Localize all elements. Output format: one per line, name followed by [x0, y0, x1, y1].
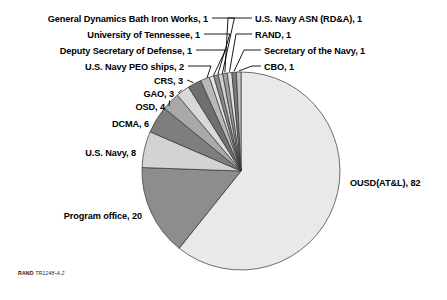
- leader-line: [187, 80, 194, 83]
- leader-line: [239, 66, 261, 71]
- pie-slices-group: [142, 72, 340, 270]
- credit-prefix: RAND: [18, 270, 34, 276]
- pie-chart-figure: General Dynamics Bath Iron Works, 1 Univ…: [0, 0, 447, 300]
- slice-label-crs: CRS, 3: [8, 76, 183, 87]
- leader-line: [230, 34, 253, 72]
- slice-label-cbo: CBO, 1: [264, 62, 294, 73]
- slice-label-program-office: Program office, 20: [8, 211, 142, 222]
- slice-label-secretary-of-the-navy: Secretary of the Navy, 1: [264, 46, 365, 57]
- leader-line: [188, 66, 211, 78]
- slice-label-us-navy-asn-rda: U.S. Navy ASN (RD&A), 1: [255, 14, 362, 25]
- slice-label-us-navy-peo-ships: U.S. Navy PEO ships, 2: [8, 62, 184, 73]
- slice-label-university-of-tennessee: University of Tennessee, 1: [8, 30, 200, 41]
- leader-line: [225, 18, 252, 72]
- credit-id: TR1248-A.2: [35, 270, 64, 276]
- leader-line: [169, 100, 170, 106]
- slice-label-general-dynamics-bath-iron-works: General Dynamics Bath Iron Works, 1: [8, 14, 208, 25]
- slice-label-rand: RAND, 1: [255, 30, 291, 41]
- slice-label-osd: OSD, 4: [8, 102, 165, 113]
- rand-document-credit: RAND TR1248-A.2: [18, 270, 65, 276]
- slice-label-deputy-secretary-of-defense: Deputy Secretary of Defense, 1: [8, 46, 192, 57]
- slice-label-gao: GAO, 3: [8, 89, 174, 100]
- slice-label-dcma: DCMA, 6: [8, 119, 149, 130]
- slice-label-ousd-atl: OUSD(AT&L), 82: [350, 178, 420, 189]
- slice-label-us-navy: U.S. Navy, 8: [8, 148, 136, 159]
